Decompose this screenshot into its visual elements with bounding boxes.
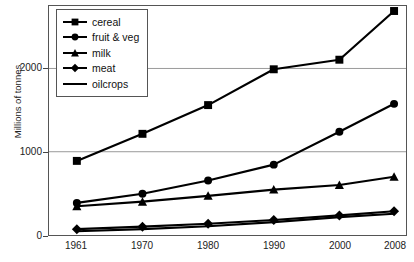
legend-item-label: cereal — [88, 16, 121, 28]
y-axis-tick-label: 1000 — [8, 147, 42, 157]
series-line-fruit-veg — [77, 104, 394, 203]
legend-item: meat — [62, 61, 139, 77]
chart-legend: cerealfruit & vegmilkmeatoilcrops — [56, 9, 148, 97]
data-point — [335, 56, 343, 64]
legend-item: milk — [62, 45, 139, 61]
data-point — [73, 157, 81, 165]
x-axis-tick-label: 2008 — [365, 240, 414, 251]
legend-item-label: milk — [88, 47, 111, 59]
y-axis-tick-mark — [43, 236, 48, 237]
data-point — [269, 215, 279, 225]
data-point — [138, 130, 146, 138]
legend-item-label: meat — [88, 62, 115, 74]
legend-item: cereal — [62, 14, 139, 30]
data-point — [204, 101, 212, 109]
x-axis-tick-label: 2000 — [310, 240, 370, 251]
y-axis-tick-labels: 010002000 — [6, 0, 42, 262]
series-line-meat — [77, 211, 394, 229]
data-point — [270, 65, 278, 73]
diamond-marker-icon — [62, 62, 88, 74]
x-axis-tick-label: 1970 — [112, 240, 172, 251]
x-axis-tick-label: 1990 — [244, 240, 304, 251]
y-axis-tick-label: 0 — [8, 231, 42, 241]
series-line-milk — [77, 177, 394, 207]
circle-marker-icon — [62, 31, 88, 43]
data-point — [72, 224, 82, 234]
data-point — [335, 128, 343, 136]
y-axis-tick-mark — [43, 152, 48, 153]
legend-item: oilcrops — [62, 76, 139, 92]
y-axis-tick-mark — [43, 68, 48, 69]
legend-item: fruit & veg — [62, 30, 139, 46]
line-chart: Millions of tonnes 010002000 cerealfruit… — [0, 0, 414, 262]
triangle-marker-icon — [62, 47, 88, 59]
x-axis-tick-label: 1980 — [178, 240, 238, 251]
data-point — [390, 100, 398, 108]
square-marker-icon — [62, 16, 88, 28]
data-point — [204, 176, 212, 184]
line-marker-icon — [62, 78, 88, 90]
data-point — [270, 161, 278, 169]
legend-item-label: oilcrops — [88, 78, 128, 90]
legend-item-label: fruit & veg — [88, 31, 139, 43]
data-point — [138, 190, 146, 198]
data-point — [334, 210, 344, 220]
y-axis-tick-label: 2000 — [8, 63, 42, 73]
x-axis-tick-label: 1961 — [46, 240, 106, 251]
data-point — [390, 7, 398, 15]
